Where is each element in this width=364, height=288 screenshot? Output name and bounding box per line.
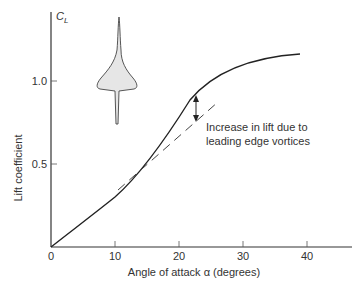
arrow-head-down-icon	[193, 115, 199, 122]
x-tick-label-20: 20	[173, 250, 185, 262]
y-axis-title: Lift coefficient	[12, 134, 24, 201]
x-axis-title: Angle of attack α (degrees)	[128, 266, 260, 278]
delta-wing-aircraft-icon	[97, 17, 137, 124]
y-tick-label-1.0: 1.0	[32, 75, 47, 87]
annotation-line-2: leading edge vortices	[206, 135, 310, 147]
x-tick-label-10: 10	[109, 250, 121, 262]
linear-lift-dashed	[118, 102, 218, 190]
x-tick-label-0: 0	[48, 250, 54, 262]
lift-curve	[51, 54, 300, 247]
annotation-line-1: Increase in lift due to	[206, 121, 308, 133]
x-tick-label-30: 30	[237, 250, 249, 262]
lift-coefficient-chart: 0 10 20 30 40 1.0 0.5 CL Lift coefficien…	[0, 0, 364, 288]
x-tick-label-40: 40	[301, 250, 313, 262]
y-axis-symbol: CL	[56, 10, 68, 25]
y-tick-label-0.5: 0.5	[32, 158, 47, 170]
